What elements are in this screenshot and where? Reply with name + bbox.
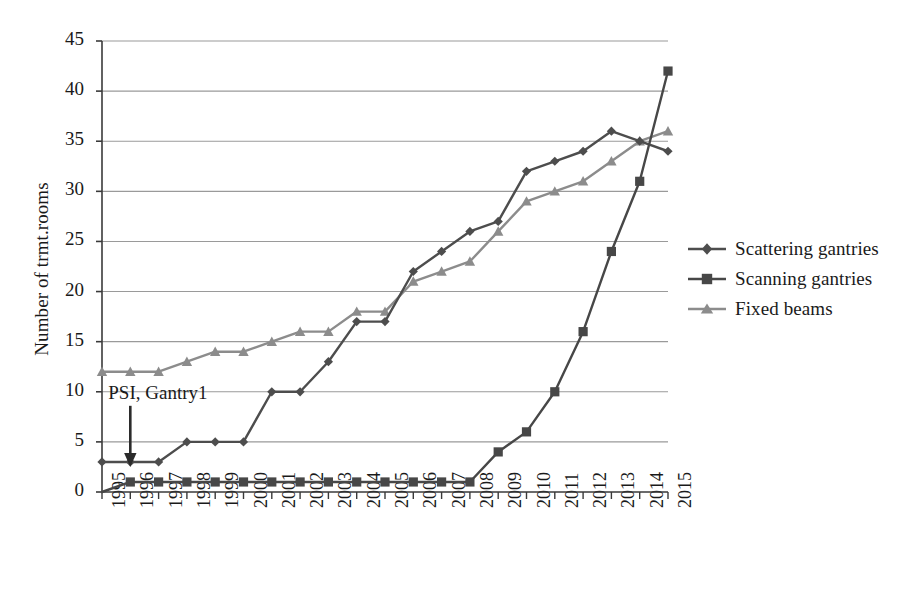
data-point-marker bbox=[550, 157, 559, 166]
data-point-marker bbox=[494, 217, 503, 226]
data-point-marker bbox=[607, 247, 616, 256]
legend-marker-triangle-icon bbox=[686, 300, 728, 318]
data-point-marker bbox=[154, 477, 163, 486]
annotation-arrow-head-icon bbox=[124, 453, 136, 467]
legend-marker-diamond-icon bbox=[686, 240, 728, 258]
annotation-label-psi-gantry1: PSI, Gantry1 bbox=[108, 382, 207, 404]
legend-item-scanning-gantries: Scanning gantries bbox=[686, 264, 916, 294]
data-point-marker bbox=[267, 387, 276, 396]
data-point-marker bbox=[296, 477, 305, 486]
legend-label-fixed-beams: Fixed beams bbox=[728, 298, 833, 320]
legend-marker-square-icon bbox=[686, 270, 728, 288]
data-point-marker bbox=[522, 167, 531, 176]
data-point-marker bbox=[380, 317, 389, 326]
data-point-marker bbox=[437, 477, 446, 486]
data-point-marker bbox=[267, 477, 276, 486]
data-point-marker bbox=[522, 427, 531, 436]
chart-legend: Scattering gantries Scanning gantries Fi… bbox=[686, 234, 916, 324]
data-point-marker bbox=[409, 477, 418, 486]
data-point-marker bbox=[579, 327, 588, 336]
data-point-marker bbox=[126, 477, 135, 486]
data-point-marker bbox=[324, 477, 333, 486]
data-point-marker bbox=[211, 437, 220, 446]
data-point-marker bbox=[550, 387, 559, 396]
data-point-marker bbox=[352, 477, 361, 486]
data-point-marker bbox=[239, 437, 248, 446]
data-point-marker bbox=[211, 477, 220, 486]
legend-label-scattering-gantries: Scattering gantries bbox=[728, 238, 879, 260]
series-line-scanning-gantries bbox=[102, 71, 668, 492]
data-point-marker bbox=[663, 126, 673, 135]
data-point-marker bbox=[97, 457, 106, 466]
data-point-marker bbox=[663, 66, 672, 75]
data-point-marker bbox=[494, 447, 503, 456]
data-point-marker bbox=[182, 477, 191, 486]
data-point-marker bbox=[663, 147, 672, 156]
data-point-marker bbox=[239, 477, 248, 486]
legend-label-scanning-gantries: Scanning gantries bbox=[728, 268, 872, 290]
data-point-marker bbox=[635, 177, 644, 186]
legend-item-scattering-gantries: Scattering gantries bbox=[686, 234, 916, 264]
data-point-marker bbox=[465, 477, 474, 486]
data-point-marker bbox=[380, 477, 389, 486]
legend-item-fixed-beams: Fixed beams bbox=[686, 294, 916, 324]
chart-figure: Number of trmt.rooms 051015202530354045 … bbox=[0, 0, 920, 590]
